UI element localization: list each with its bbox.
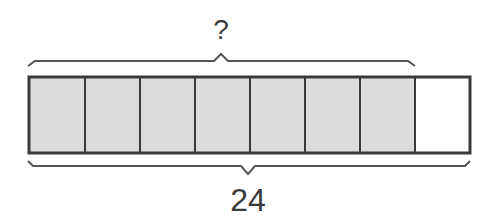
bottom-brace — [28, 161, 470, 174]
unknown-part-label: ? — [201, 14, 241, 46]
tape-bar — [29, 77, 470, 153]
top-brace — [28, 54, 415, 66]
total-label: 24 — [218, 182, 278, 218]
